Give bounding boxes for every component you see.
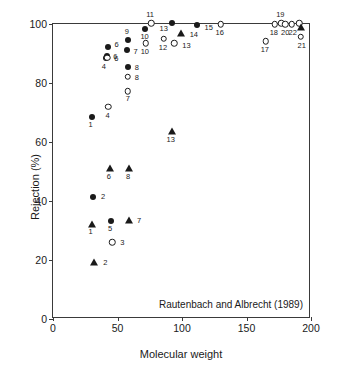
y-axis-tick-label: 80 — [35, 77, 47, 89]
data-point-filled-triangle — [168, 127, 176, 134]
data-point-label: 12 — [159, 44, 167, 52]
x-axis-tick — [247, 317, 248, 321]
data-point-label: 13 — [167, 136, 175, 144]
y-axis-label: Rejection (%) — [29, 153, 41, 219]
plot-area: 020406080100050100150200 146697825101315… — [52, 23, 310, 318]
x-axis-tick-label: 200 — [302, 322, 320, 334]
data-point-label: 5 — [108, 225, 112, 233]
data-point-label: 10 — [141, 48, 149, 56]
data-point-label: 7 — [134, 48, 138, 56]
data-point-filled-circle — [124, 47, 130, 53]
data-point-label: 7 — [137, 217, 141, 225]
y-axis-tick — [49, 142, 53, 143]
data-point-open-circle — [105, 103, 112, 110]
data-point-label: 17 — [261, 46, 269, 54]
data-point-label: 21 — [298, 42, 306, 50]
data-point-filled-circle — [90, 194, 96, 200]
data-point-filled-circle — [194, 22, 200, 28]
data-point-label: 4 — [105, 112, 109, 120]
data-point-label: 19 — [276, 12, 284, 20]
data-point-filled-triangle — [125, 216, 133, 223]
data-point-filled-circle — [105, 44, 111, 50]
data-point-label: 8 — [135, 65, 139, 73]
data-point-label: 9 — [125, 28, 129, 36]
citation-annotation: Rautenbach and Albrecht (1989) — [159, 299, 303, 310]
data-point-filled-circle — [108, 218, 114, 224]
y-axis-tick — [49, 83, 53, 84]
data-point-label: 8 — [126, 173, 130, 181]
data-point-open-circle — [148, 20, 155, 27]
data-point-filled-triangle — [297, 24, 305, 31]
x-axis-tick-label: 50 — [112, 322, 124, 334]
y-axis-tick-label: 60 — [35, 136, 47, 148]
data-point-filled-circle — [125, 37, 131, 43]
data-point-filled-circle — [125, 64, 131, 70]
x-axis-label: Molecular weight — [52, 348, 310, 360]
data-point-open-circle — [161, 36, 168, 43]
data-point-filled-triangle — [90, 258, 98, 265]
data-point-label: 7 — [126, 96, 130, 104]
data-point-label: 2 — [101, 194, 105, 202]
data-point-label: 3 — [120, 240, 124, 248]
data-point-open-circle — [109, 239, 116, 246]
data-point-open-circle — [297, 34, 304, 41]
data-point-filled-circle — [142, 26, 148, 32]
data-point-open-circle — [125, 73, 132, 80]
data-point-label: 13 — [160, 25, 168, 33]
x-axis-tick — [118, 317, 119, 321]
data-point-filled-circle — [89, 114, 95, 120]
x-axis-tick — [182, 317, 183, 321]
data-point-label: 1 — [89, 228, 93, 236]
x-axis-tick — [53, 317, 54, 321]
data-point-label: 11 — [146, 12, 154, 20]
data-point-label: 8 — [135, 74, 139, 82]
scatter-chart-figure: Rejection (%) Molecular weight 020406080… — [0, 0, 338, 373]
data-point-label: 6 — [114, 41, 118, 49]
data-point-label: 4 — [102, 63, 106, 71]
data-point-label: 2 — [103, 259, 107, 267]
data-point-label: 6 — [107, 173, 111, 181]
data-point-filled-triangle — [106, 164, 114, 171]
y-axis-tick — [49, 260, 53, 261]
data-point-label: 15 — [204, 24, 212, 32]
data-point-open-circle — [288, 21, 295, 28]
data-point-filled-circle — [169, 20, 175, 26]
data-point-open-circle — [217, 21, 224, 28]
data-point-open-circle — [171, 40, 178, 47]
y-axis-tick-label: 0 — [41, 313, 47, 325]
data-point-label: 6 — [114, 55, 118, 63]
x-axis-tick-label: 150 — [238, 322, 256, 334]
data-point-filled-triangle — [177, 30, 185, 37]
y-axis-tick — [49, 201, 53, 202]
data-point-label: 18 — [270, 30, 278, 38]
y-axis-tick — [49, 24, 53, 25]
x-axis-tick-label: 0 — [50, 322, 56, 334]
data-point-label: 22 — [288, 30, 296, 38]
data-point-open-circle — [263, 38, 270, 45]
x-axis-tick — [311, 317, 312, 321]
data-point-filled-triangle — [125, 164, 133, 171]
y-axis-tick-label: 20 — [35, 254, 47, 266]
data-point-label: 13 — [182, 43, 190, 51]
data-point-label: 1 — [89, 121, 93, 129]
y-axis-tick-label: 40 — [35, 195, 47, 207]
y-axis-tick-label: 100 — [29, 18, 47, 30]
data-point-open-circle — [104, 54, 111, 61]
x-axis-tick-label: 100 — [173, 322, 191, 334]
data-point-open-circle — [143, 40, 150, 47]
data-point-label: 16 — [216, 30, 224, 38]
data-point-label: 14 — [190, 32, 198, 40]
